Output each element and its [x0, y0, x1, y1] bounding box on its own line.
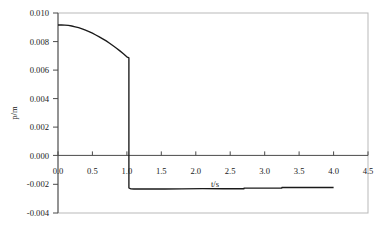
y-tick-label-7: -0.004 [27, 208, 50, 218]
line-chart: 0.010 0.008 0.006 0.004 0.002 0.000 -0.0… [0, 0, 390, 236]
x-tick-label-1: 0.5 [87, 166, 98, 176]
y-tick-label-4: 0.002 [30, 122, 49, 132]
y-tick-marks [53, 13, 58, 213]
x-tick-label-6: 3.0 [259, 166, 270, 176]
y-axis-title: p/m [9, 106, 19, 120]
x-tick-label-7: 3.5 [294, 166, 305, 176]
x-tick-label-3: 1.5 [156, 166, 167, 176]
x-axis-title: t/s [211, 179, 220, 189]
y-tick-label-5: 0.000 [30, 151, 49, 161]
x-tick-label-4: 2.0 [190, 166, 201, 176]
figure-container: 0.010 0.008 0.006 0.004 0.002 0.000 -0.0… [0, 0, 390, 236]
y-tick-label-6: -0.002 [27, 179, 49, 189]
x-tick-label-0: 0.0 [53, 166, 64, 176]
data-series-p [58, 25, 334, 189]
x-tick-marks [58, 151, 368, 155]
y-tick-label-0: 0.010 [30, 8, 49, 18]
y-tick-label-2: 0.006 [30, 65, 50, 75]
x-tick-label-8: 4.0 [328, 166, 339, 176]
y-tick-label-1: 0.008 [30, 37, 49, 47]
x-tick-label-5: 2.5 [225, 166, 236, 176]
x-tick-label-9: 4.5 [363, 166, 374, 176]
x-tick-label-2: 1.0 [122, 166, 133, 176]
y-tick-label-3: 0.004 [30, 94, 50, 104]
